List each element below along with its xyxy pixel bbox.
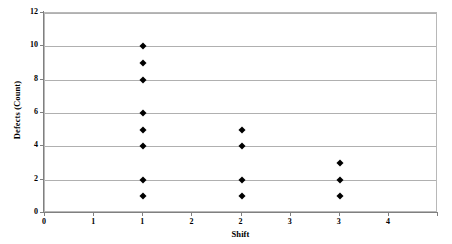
x-tick-mark [437,212,438,216]
data-point [336,193,343,200]
x-tick-mark [93,212,94,216]
scatter-chart: Defects (Count) 024681012 Shift 01122334 [0,0,452,244]
y-axis-tick-labels: 024681012 [18,9,38,212]
y-tick-label: 8 [18,75,38,83]
x-axis-title: Shift [44,229,437,239]
gridline-y [45,113,436,114]
y-tick-mark [40,112,44,113]
gridline-y [45,46,436,47]
x-tick-label: 3 [327,217,351,226]
data-point [140,43,147,50]
data-point [140,126,147,133]
data-point [140,193,147,200]
y-tick-label: 10 [18,41,38,49]
plot-area [44,12,437,212]
data-point [140,76,147,83]
gridline-y [45,13,436,14]
y-tick-label: 6 [18,108,38,116]
data-point [140,143,147,150]
x-tick-mark [339,212,340,216]
x-tick-mark [241,212,242,216]
y-tick-mark [40,179,44,180]
y-tick-label: 0 [18,208,38,216]
data-point [238,176,245,183]
y-tick-mark [40,145,44,146]
x-tick-mark [290,212,291,216]
x-tick-label: 2 [179,217,203,226]
x-tick-mark [388,212,389,216]
x-tick-label: 1 [130,217,154,226]
data-point [238,143,245,150]
x-tick-mark [191,212,192,216]
x-tick-label: 0 [32,217,56,226]
y-tick-mark [40,12,44,13]
data-point [140,109,147,116]
data-point [336,176,343,183]
x-tick-mark [44,212,45,216]
x-tick-label: 2 [229,217,253,226]
x-tick-label: 1 [81,217,105,226]
data-point [238,126,245,133]
y-tick-mark [40,45,44,46]
data-point [336,159,343,166]
plot-inner [45,13,436,211]
gridline-y [45,80,436,81]
y-tick-label: 12 [18,8,38,16]
y-tick-label: 2 [18,175,38,183]
data-point [140,59,147,66]
x-tick-mark [142,212,143,216]
data-point [238,193,245,200]
x-tick-label: 3 [278,217,302,226]
x-tick-label: 4 [376,217,400,226]
data-point [140,176,147,183]
y-tick-label: 4 [18,141,38,149]
y-tick-mark [40,79,44,80]
